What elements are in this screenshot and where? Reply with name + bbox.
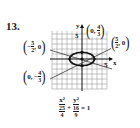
equation-term-y: y² 169 <box>73 97 79 118</box>
grid <box>52 31 107 89</box>
bottom-vertex-point <box>80 64 83 67</box>
top-vertex-point <box>80 51 83 54</box>
right-vertex-point <box>93 58 96 61</box>
center-point <box>80 57 83 60</box>
left-vertex-label: ( − 52 , 0 ) <box>23 40 46 53</box>
right-vertex-label: ( 52 , 0 ) <box>111 36 130 49</box>
equation-term-x: x² 254 <box>59 97 65 118</box>
x-tick-5: 5 <box>104 61 108 69</box>
bottom-vertex-label: ( 0, − 43 ) <box>23 70 46 83</box>
ellipse-equation: x² 254 + y² 169 = 1 <box>59 97 92 118</box>
y-tick-5: 5 <box>75 32 79 40</box>
top-vertex-label: ( 0, 43 ) <box>86 24 105 37</box>
left-vertex-point <box>68 58 71 61</box>
y-axis-arrow-icon <box>80 24 84 28</box>
y-axis-label: y <box>76 22 80 30</box>
x-axis-label: x <box>113 59 117 67</box>
